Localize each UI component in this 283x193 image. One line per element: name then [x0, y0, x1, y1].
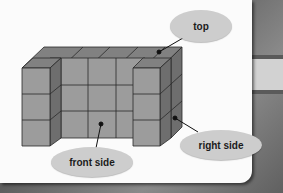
right-column-side: [160, 58, 171, 146]
label-front-side: front side: [51, 147, 133, 177]
right-column-front: [133, 68, 160, 146]
right-pointer-dot: [173, 116, 177, 120]
back-wall-front: [50, 58, 145, 138]
label-top: top: [170, 10, 232, 42]
left-column-side: [50, 58, 61, 146]
cube-structure-illustration: [0, 0, 283, 193]
left-column-front: [22, 68, 50, 146]
right-column-back-side: [171, 47, 182, 138]
label-right-side: right side: [180, 130, 262, 160]
top-pointer-dot: [157, 50, 161, 54]
front-pointer-dot: [99, 122, 103, 126]
